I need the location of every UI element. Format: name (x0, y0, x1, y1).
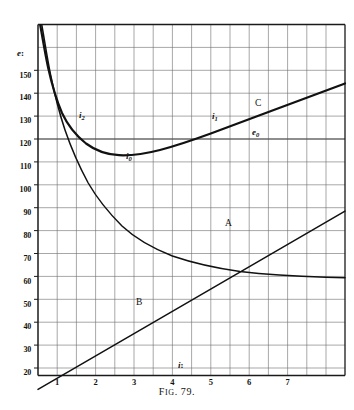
y-tick-label-110: 110 (9, 162, 31, 171)
point-label-i1: i1 (212, 111, 218, 121)
y-tick-label-130: 130 (9, 116, 31, 125)
y-tick-label-150: 150 (9, 71, 31, 80)
point-label-i2: i2 (79, 110, 85, 120)
y-tick-label-140: 140 (9, 93, 31, 102)
y-tick-label-80: 80 (9, 231, 31, 240)
curve-label-c: C (255, 98, 262, 108)
y-tick-label-60: 60 (9, 277, 31, 286)
y-tick-label-90: 90 (9, 208, 31, 217)
curve-a-path (42, 25, 345, 278)
curve-c-path (40, 25, 345, 155)
point-label-i0-sub: 0 (129, 155, 132, 162)
x-axis-title-colon: : (181, 360, 184, 370)
caption-number: . 79. (175, 386, 196, 397)
point-label-i0: i0 (126, 151, 132, 161)
y-tick-label-30: 30 (9, 345, 31, 354)
point-label-i1-sub: 1 (215, 115, 218, 122)
y-axis-title: e: (17, 48, 24, 58)
level-label-e0-sub: 0 (256, 131, 259, 138)
plot-area (0, 0, 354, 410)
y-tick-label-20: 20 (9, 368, 31, 377)
y-tick-label-120: 120 (9, 139, 31, 148)
grid-lines (38, 25, 345, 376)
x-axis-title: i: (178, 360, 184, 370)
y-tick-label-40: 40 (9, 322, 31, 331)
caption-smallcaps: IG (165, 388, 175, 397)
point-label-i2-sub: 2 (82, 114, 85, 121)
y-axis-title-colon: : (21, 48, 24, 58)
figure-caption: FIG. 79. (0, 386, 354, 397)
y-tick-label-50: 50 (9, 300, 31, 309)
y-tick-label-70: 70 (9, 254, 31, 263)
level-label-e0: e0 (252, 127, 259, 137)
curve-label-b: B (136, 297, 143, 307)
y-tick-label-100: 100 (9, 185, 31, 194)
curve-label-a: A (225, 218, 232, 228)
figure-79: 150 140 130 120 110 100 90 80 70 60 50 4… (0, 0, 354, 410)
